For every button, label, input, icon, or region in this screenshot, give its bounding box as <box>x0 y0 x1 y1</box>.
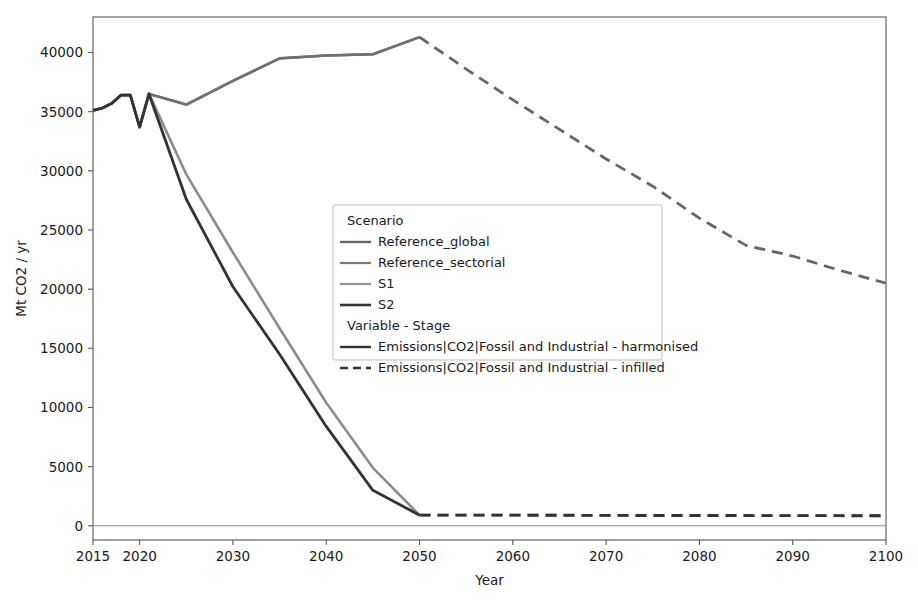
legend-entry-label[interactable]: S1 <box>378 276 395 291</box>
emissions-line-chart: 2015202020302040205020602070208020902100… <box>0 0 918 603</box>
y-tick-label: 15000 <box>40 340 83 356</box>
x-tick-label: 2090 <box>776 548 810 564</box>
x-tick-label: 2020 <box>122 548 156 564</box>
legend-group-title: Variable - Stage <box>347 318 450 333</box>
y-tick-label: 40000 <box>40 44 83 60</box>
x-tick-label: 2100 <box>869 548 903 564</box>
legend-entry-label[interactable]: S2 <box>378 297 395 312</box>
x-tick-label: 2080 <box>682 548 716 564</box>
x-axis-title: Year <box>474 572 504 588</box>
legend-group-title: Scenario <box>347 213 404 228</box>
legend-entry-label[interactable]: Reference_sectorial <box>378 255 505 270</box>
y-tick-label: 30000 <box>40 163 83 179</box>
x-tick-label: 2015 <box>76 548 110 564</box>
y-tick-label: 0 <box>74 518 83 534</box>
x-tick-label: 2050 <box>402 548 436 564</box>
y-tick-label: 25000 <box>40 222 83 238</box>
y-tick-label: 20000 <box>40 281 83 297</box>
x-tick-label: 2070 <box>589 548 623 564</box>
y-tick-label: 35000 <box>40 104 83 120</box>
legend-entry-label[interactable]: Emissions|CO2|Fossil and Industrial - in… <box>378 360 665 375</box>
legend-entry-label[interactable]: Reference_global <box>378 234 490 249</box>
y-tick-label: 5000 <box>49 459 83 475</box>
y-tick-label: 10000 <box>40 399 83 415</box>
x-tick-label: 2060 <box>496 548 530 564</box>
y-axis-title: Mt CO2 / yr <box>13 240 29 317</box>
legend-entry-label[interactable]: Emissions|CO2|Fossil and Industrial - ha… <box>378 339 698 354</box>
x-tick-label: 2030 <box>216 548 250 564</box>
chart-legend[interactable]: ScenarioReference_globalReference_sector… <box>333 205 698 375</box>
x-tick-label: 2040 <box>309 548 343 564</box>
